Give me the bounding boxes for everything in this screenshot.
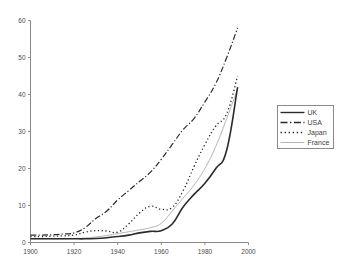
series-line-usa <box>31 28 238 235</box>
legend-label-uk: UK <box>308 109 318 116</box>
y-tick-label: 10 <box>18 202 26 209</box>
y-tick-label: 20 <box>18 165 26 172</box>
y-tick-label: 60 <box>18 17 26 24</box>
legend-label-france: France <box>308 139 330 146</box>
x-tick-label: 1940 <box>110 248 125 255</box>
axis-lines <box>31 21 249 243</box>
y-axis-ticks: 0102030405060 <box>18 17 30 246</box>
x-tick-label: 1920 <box>67 248 82 255</box>
series-line-france <box>31 89 238 239</box>
series-line-uk <box>31 87 238 239</box>
x-tick-label: 1980 <box>198 248 213 255</box>
y-tick-label: 50 <box>18 54 26 61</box>
y-tick-label: 40 <box>18 91 26 98</box>
y-tick-label: 30 <box>18 128 26 135</box>
legend-label-japan: Japan <box>308 129 327 137</box>
axes <box>31 21 249 243</box>
legend-label-usa: USA <box>308 119 323 126</box>
legend: UKUSAJapanFrance <box>278 106 334 149</box>
x-tick-label: 1960 <box>154 248 169 255</box>
x-tick-label: 1900 <box>23 248 38 255</box>
line-chart: 190019201940196019802000 0102030405060 U… <box>0 0 345 278</box>
plot-area: 190019201940196019802000 0102030405060 <box>18 17 256 255</box>
data-series <box>31 28 238 239</box>
x-axis-ticks: 190019201940196019802000 <box>23 243 256 255</box>
y-tick-label: 0 <box>22 239 26 246</box>
x-tick-label: 2000 <box>241 248 256 255</box>
chart-canvas: 190019201940196019802000 0102030405060 U… <box>0 0 345 278</box>
